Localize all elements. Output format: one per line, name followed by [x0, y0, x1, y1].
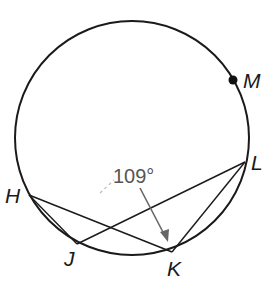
label-J: J	[63, 247, 75, 270]
label-M: M	[243, 69, 261, 92]
label-K: K	[167, 257, 182, 280]
segment-HK	[29, 195, 172, 252]
dashed-leader	[100, 180, 114, 193]
label-H: H	[5, 184, 21, 207]
label-L: L	[251, 151, 263, 174]
arrowhead-icon	[160, 229, 169, 242]
segment-HJ	[29, 195, 77, 244]
segment-KL	[172, 162, 245, 252]
angle-label: 109°	[113, 165, 154, 187]
geometry-diagram: 109° H J K L M	[0, 0, 279, 289]
point-M-dot	[229, 76, 238, 85]
circle	[15, 21, 249, 255]
